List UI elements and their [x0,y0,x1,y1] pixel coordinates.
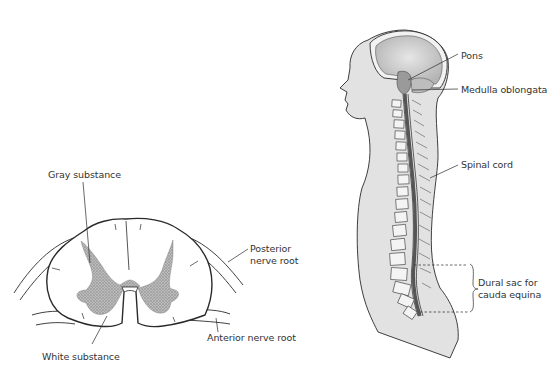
label-dural-sac-line2: cauda equina [478,289,541,300]
label-anterior-nerve-root: Anterior nerve root [207,332,296,343]
label-gray-substance: Gray substance [48,169,121,180]
label-dural-sac-line1: Dural sac for [478,277,538,288]
leader-anterior-nerve-root [216,318,218,332]
label-spinal-cord: Spinal cord [461,159,513,170]
cord-outline [47,218,212,326]
leader-posterior-nerve-root [228,249,248,262]
label-medulla-oblongata: Medulla oblongata [461,84,547,95]
label-pons: Pons [461,50,483,61]
central-canal [122,287,138,292]
label-posterior-nerve-root-line1: Posterior [250,243,291,254]
dural-sac-brace [470,264,478,312]
label-posterior-nerve-root-line2: nerve root [250,255,298,266]
spinal-cord-cross-section [14,218,243,326]
label-white-substance: White substance [42,351,120,362]
